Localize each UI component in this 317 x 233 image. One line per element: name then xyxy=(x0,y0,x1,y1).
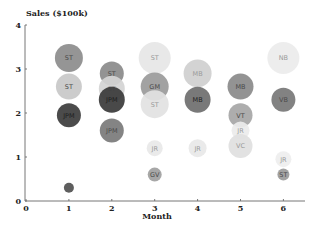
y-tick-label: 2 xyxy=(15,108,21,118)
x-axis-title: Month xyxy=(142,211,172,221)
bubble-label: MB xyxy=(193,96,203,104)
bubble-label: VC xyxy=(236,142,245,150)
bubble-label: VB xyxy=(279,96,288,104)
bubble-label: NB xyxy=(279,54,288,62)
bubble-label: VT xyxy=(236,112,244,120)
bubble-label: MB xyxy=(235,83,245,91)
bubble-label: ST xyxy=(151,54,159,62)
bubble-label: ST xyxy=(65,83,73,91)
bubble: GV xyxy=(148,168,162,182)
bubble: ST xyxy=(55,44,83,72)
bubble-label: JR xyxy=(193,145,201,153)
bubble-label: JR xyxy=(236,127,244,135)
bubble-label: JPM xyxy=(105,96,117,104)
bubble: ST xyxy=(141,90,169,118)
bubble: VC xyxy=(229,134,253,158)
y-tick-label: 4 xyxy=(15,20,21,30)
x-tick-label: 5 xyxy=(238,203,244,213)
bubble: ST xyxy=(277,169,289,181)
bubble: MB xyxy=(184,59,212,87)
bubble-label: ST xyxy=(151,101,159,109)
y-axis-title: Sales ($100k) xyxy=(26,8,88,18)
bubble-label: JR xyxy=(150,145,158,153)
x-tick-label: 2 xyxy=(109,203,115,213)
bubble: JPM xyxy=(100,119,124,143)
bubble-label: JPM xyxy=(62,112,74,120)
bubble-label: JR xyxy=(279,156,287,164)
bubble-label: GM xyxy=(149,83,160,91)
bubble-chart: STSTJPMSTSTJPMJPMSTGMSTJRGVMBMBJRMBVTJRV… xyxy=(0,0,317,233)
bubble: JR xyxy=(189,139,207,157)
bubble-label: JPM xyxy=(105,127,117,135)
bubble: ST xyxy=(56,74,82,100)
bubble: MB xyxy=(228,74,254,100)
bubble: JR xyxy=(147,140,163,156)
bubble: ST xyxy=(139,42,171,74)
x-tick-label: 4 xyxy=(195,203,201,213)
bubble: JPM xyxy=(99,87,125,113)
x-tick-label: 6 xyxy=(281,203,287,213)
bubble: JR xyxy=(275,151,291,167)
bubble-label: ST xyxy=(65,54,73,62)
bubble: VB xyxy=(271,88,295,112)
x-tick-label: 1 xyxy=(66,203,72,213)
y-tick-label: 0 xyxy=(15,196,21,206)
y-tick-label: 3 xyxy=(15,64,21,74)
bubble: NB xyxy=(267,42,299,74)
bubble-circle xyxy=(64,183,74,193)
bubble-label: ST xyxy=(279,171,287,179)
x-tick-label: 0 xyxy=(23,203,29,213)
bubble: MB xyxy=(185,87,211,113)
bubble-label: MB xyxy=(193,70,203,78)
bubble: JPM xyxy=(57,103,81,127)
y-tick-label: 1 xyxy=(15,152,21,162)
bubble xyxy=(64,183,74,193)
bubble-layer: STSTJPMSTSTJPMJPMSTGMSTJRGVMBMBJRMBVTJRV… xyxy=(55,42,300,193)
bubble-label: GV xyxy=(150,171,160,179)
